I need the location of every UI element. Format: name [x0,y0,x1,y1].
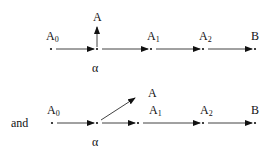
node-label-a2-text: A [200,103,209,117]
branch-label-a: A [148,87,157,99]
diagram-canvas [0,0,272,153]
node-label-a1-subscript: 1 [158,109,162,118]
node-label-a0-subscript: 0 [56,109,60,118]
node-label-a1-text: A [147,29,156,43]
node-label-b-text: B [251,103,259,117]
node-label-a0-text: A [47,103,56,117]
node-point-a1 [150,48,152,50]
node-label-a2: A2 [199,30,212,46]
node-point-b [254,122,256,124]
node-label-a1: A1 [147,30,160,46]
node-point-a0 [50,48,52,50]
node-label-a2-text: A [199,29,208,43]
branch-label-a-text: A [148,86,157,100]
connector-word: and [11,117,28,129]
node-label-a2-subscript: 2 [208,35,212,44]
node-label-a0-text: A [46,29,55,43]
node-label-a0: A0 [47,104,60,120]
node-point-a0 [51,122,53,124]
node-point-a2 [202,122,204,124]
node-label-b: B [251,104,259,116]
node-label-b-text: B [251,29,259,43]
node-label-alpha: α [92,62,98,74]
node-label-a1-text: A [149,103,158,117]
node-point-a2 [202,48,204,50]
node-label-a1: A1 [149,104,162,120]
node-label-a0-subscript: 0 [55,35,59,44]
node-label-a2: A2 [200,104,213,120]
node-label-alpha-text: α [92,135,98,149]
branch-arrow-alpha-to-a [101,98,135,120]
node-point-b [254,48,256,50]
node-label-a0: A0 [46,30,59,46]
branch-label-a-text: A [93,10,102,24]
node-point-a1 [137,122,139,124]
branch-label-a: A [93,11,102,23]
node-point-alpha [96,122,98,124]
node-label-alpha: α [92,136,98,148]
node-label-a2-subscript: 2 [209,109,213,118]
node-label-a1-subscript: 1 [156,35,160,44]
node-point-alpha [96,48,98,50]
node-label-b: B [251,30,259,42]
node-label-alpha-text: α [92,61,98,75]
